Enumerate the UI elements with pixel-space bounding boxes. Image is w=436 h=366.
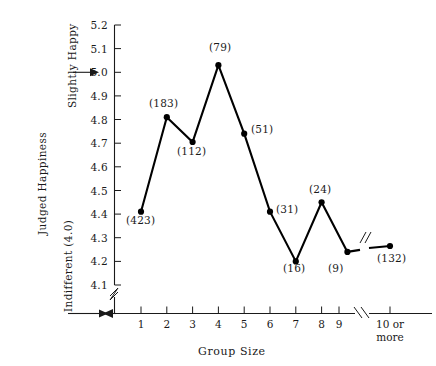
point-label-group-2: (183) xyxy=(149,97,178,109)
x-tick-label-10-or-more-line1: 10 or xyxy=(367,318,413,331)
data-point-marker xyxy=(267,209,273,215)
y-tick-label-4-6: 4.6 xyxy=(82,161,108,173)
data-series-line-break-right xyxy=(369,246,390,248)
x-tick-label-9: 9 xyxy=(332,318,346,330)
point-label-group-10-or-more: (132) xyxy=(377,252,406,264)
y-axis-ticks xyxy=(115,25,122,285)
series-break-icon xyxy=(360,232,371,243)
data-series-line xyxy=(141,65,347,261)
annotation-indifferent: Indifferent (4.0) xyxy=(62,220,74,312)
y-tick-label-4-8: 4.8 xyxy=(82,114,108,126)
y-tick-label-4-7: 4.7 xyxy=(82,137,108,149)
x-tick-label-2: 2 xyxy=(160,318,174,330)
x-axis-line-group xyxy=(103,307,432,318)
x-tick-label-5: 5 xyxy=(237,318,251,330)
point-label-group-9: (9) xyxy=(328,262,343,274)
point-label-group-8: (24) xyxy=(309,183,331,195)
x-tick-label-7: 7 xyxy=(289,318,303,330)
y-tick-label-5-2: 5.2 xyxy=(82,19,108,31)
happiness-vs-group-size-chart: 5.2 5.1 5.0 4.9 4.8 4.7 4.6 4.5 4.4 4.3 … xyxy=(0,0,436,366)
x-axis-ticks xyxy=(141,307,390,314)
data-point-marker xyxy=(164,114,170,120)
x-tick-label-6: 6 xyxy=(263,318,277,330)
data-point-marker xyxy=(387,243,393,249)
point-label-group-1: (423) xyxy=(126,214,155,226)
y-tick-label-5-1: 5.1 xyxy=(82,43,108,55)
data-point-markers xyxy=(138,62,393,264)
y-tick-label-4-5: 4.5 xyxy=(82,185,108,197)
point-label-group-6: (31) xyxy=(276,203,298,215)
point-label-group-7: (16) xyxy=(283,262,305,274)
data-point-marker xyxy=(241,131,247,137)
x-tick-label-4: 4 xyxy=(211,318,225,330)
point-label-group-4: (79) xyxy=(209,41,231,53)
x-tick-label-8: 8 xyxy=(315,318,329,330)
y-tick-label-4-4: 4.4 xyxy=(82,208,108,220)
data-point-marker xyxy=(319,199,325,205)
x-axis-title: Group Size xyxy=(198,345,266,358)
y-tick-label-5-0: 5.0 xyxy=(82,66,108,78)
point-label-group-3: (112) xyxy=(177,145,206,157)
y-tick-label-4-2: 4.2 xyxy=(82,255,108,267)
data-point-marker xyxy=(215,62,221,68)
y-tick-label-4-3: 4.3 xyxy=(82,232,108,244)
x-tick-label-10-or-more: 10 or more xyxy=(367,318,413,344)
x-tick-label-3: 3 xyxy=(186,318,200,330)
point-label-group-5: (51) xyxy=(251,123,273,135)
annotation-slightly-happy: Slightly Happy xyxy=(66,23,78,108)
y-tick-label-4-9: 4.9 xyxy=(82,90,108,102)
y-axis-title: Judged Happiness xyxy=(36,132,48,235)
indifferent-pointer xyxy=(68,310,108,318)
y-tick-label-4-1: 4.1 xyxy=(82,279,108,291)
x-tick-label-1: 1 xyxy=(134,318,148,330)
x-tick-label-10-or-more-line2: more xyxy=(367,331,413,344)
data-point-marker xyxy=(344,249,350,255)
